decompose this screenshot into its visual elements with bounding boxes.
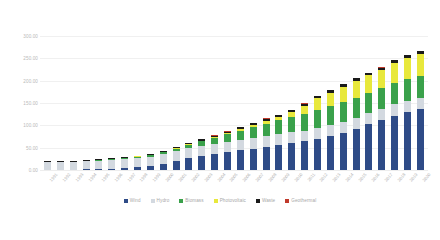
- bar-segment-biomass[interactable]: [301, 114, 308, 131]
- bar-segment-photovoltaic[interactable]: [340, 87, 347, 103]
- bar-column[interactable]: [157, 36, 170, 170]
- bar-segment-photovoltaic[interactable]: [301, 106, 308, 114]
- bar-segment-wind[interactable]: [173, 161, 180, 170]
- bar-column[interactable]: [401, 36, 414, 170]
- bar-segment-hydro[interactable]: [211, 144, 218, 154]
- legend-item-wind[interactable]: Wind: [124, 198, 141, 203]
- bar-stack[interactable]: [263, 118, 270, 170]
- bar-segment-photovoltaic[interactable]: [353, 81, 360, 98]
- bar-stack[interactable]: [417, 51, 424, 170]
- bar-stack[interactable]: [288, 110, 295, 170]
- bar-segment-hydro[interactable]: [173, 151, 180, 161]
- bar-segment-hydro[interactable]: [57, 162, 64, 169]
- bar-column[interactable]: [414, 36, 427, 170]
- bar-stack[interactable]: [121, 157, 128, 170]
- bar-column[interactable]: [41, 36, 54, 170]
- bar-stack[interactable]: [391, 60, 398, 170]
- bar-segment-hydro[interactable]: [237, 140, 244, 150]
- bar-column[interactable]: [375, 36, 388, 170]
- bar-stack[interactable]: [353, 78, 360, 170]
- bar-segment-hydro[interactable]: [365, 113, 372, 124]
- bar-column[interactable]: [234, 36, 247, 170]
- bar-segment-wind[interactable]: [314, 139, 321, 170]
- bar-segment-hydro[interactable]: [417, 98, 424, 109]
- bar-stack[interactable]: [173, 147, 180, 170]
- bar-segment-hydro[interactable]: [44, 162, 51, 169]
- bar-segment-photovoltaic[interactable]: [404, 58, 411, 79]
- bar-segment-wind[interactable]: [404, 112, 411, 170]
- bar-column[interactable]: [105, 36, 118, 170]
- bar-segment-biomass[interactable]: [224, 134, 231, 142]
- bar-segment-wind[interactable]: [327, 136, 334, 170]
- bar-column[interactable]: [221, 36, 234, 170]
- bar-column[interactable]: [311, 36, 324, 170]
- bar-segment-biomass[interactable]: [378, 88, 385, 109]
- bar-column[interactable]: [208, 36, 221, 170]
- bar-column[interactable]: [285, 36, 298, 170]
- bar-segment-wind[interactable]: [417, 109, 424, 170]
- bar-segment-wind[interactable]: [288, 143, 295, 170]
- bar-stack[interactable]: [70, 161, 77, 170]
- bar-column[interactable]: [170, 36, 183, 170]
- bar-column[interactable]: [131, 36, 144, 170]
- bar-segment-biomass[interactable]: [417, 76, 424, 98]
- bar-segment-wind[interactable]: [353, 129, 360, 170]
- bar-segment-wind[interactable]: [365, 124, 372, 170]
- bar-segment-photovoltaic[interactable]: [314, 98, 321, 110]
- bar-segment-hydro[interactable]: [198, 146, 205, 156]
- bar-stack[interactable]: [275, 115, 282, 170]
- bar-segment-biomass[interactable]: [288, 117, 295, 132]
- bar-segment-hydro[interactable]: [121, 159, 128, 168]
- bar-stack[interactable]: [95, 159, 102, 170]
- bar-stack[interactable]: [185, 143, 192, 170]
- bar-segment-hydro[interactable]: [250, 138, 257, 148]
- bar-segment-hydro[interactable]: [185, 148, 192, 158]
- bar-segment-hydro[interactable]: [404, 101, 411, 112]
- bar-stack[interactable]: [134, 156, 141, 171]
- bar-column[interactable]: [324, 36, 337, 170]
- bar-column[interactable]: [247, 36, 260, 170]
- bar-segment-hydro[interactable]: [263, 136, 270, 147]
- bar-column[interactable]: [272, 36, 285, 170]
- bar-segment-hydro[interactable]: [83, 161, 90, 169]
- bar-segment-hydro[interactable]: [108, 160, 115, 168]
- bar-segment-wind[interactable]: [198, 156, 205, 170]
- bar-column[interactable]: [54, 36, 67, 170]
- bar-stack[interactable]: [314, 96, 321, 170]
- bar-column[interactable]: [298, 36, 311, 170]
- bar-segment-wind[interactable]: [250, 149, 257, 170]
- bar-segment-hydro[interactable]: [301, 131, 308, 142]
- bar-segment-photovoltaic[interactable]: [327, 93, 334, 107]
- bar-segment-hydro[interactable]: [288, 132, 295, 143]
- bar-segment-wind[interactable]: [301, 141, 308, 170]
- bar-segment-hydro[interactable]: [391, 104, 398, 115]
- bar-column[interactable]: [182, 36, 195, 170]
- bar-segment-hydro[interactable]: [340, 122, 347, 133]
- bar-segment-wind[interactable]: [263, 147, 270, 170]
- legend-item-hydro[interactable]: Hydro: [151, 198, 170, 203]
- bar-stack[interactable]: [365, 73, 372, 170]
- bar-column[interactable]: [118, 36, 131, 170]
- bar-segment-wind[interactable]: [275, 145, 282, 170]
- legend-item-biomass[interactable]: Biomass: [179, 198, 203, 203]
- bar-column[interactable]: [92, 36, 105, 170]
- bar-segment-hydro[interactable]: [275, 134, 282, 145]
- bar-segment-biomass[interactable]: [340, 102, 347, 122]
- bar-segment-wind[interactable]: [211, 154, 218, 170]
- bar-stack[interactable]: [224, 131, 231, 170]
- bar-segment-hydro[interactable]: [378, 109, 385, 120]
- bar-segment-hydro[interactable]: [327, 125, 334, 136]
- bar-segment-photovoltaic[interactable]: [378, 70, 385, 88]
- bar-segment-biomass[interactable]: [391, 83, 398, 104]
- bar-segment-hydro[interactable]: [95, 161, 102, 169]
- bar-segment-biomass[interactable]: [237, 131, 244, 140]
- bar-segment-hydro[interactable]: [314, 128, 321, 139]
- bar-column[interactable]: [67, 36, 80, 170]
- bar-segment-biomass[interactable]: [365, 93, 372, 114]
- bar-segment-wind[interactable]: [237, 150, 244, 170]
- bar-segment-biomass[interactable]: [404, 79, 411, 101]
- bar-stack[interactable]: [404, 55, 411, 170]
- bar-column[interactable]: [195, 36, 208, 170]
- bar-segment-wind[interactable]: [378, 120, 385, 170]
- legend-item-photovoltaic[interactable]: Photovoltaic: [214, 198, 246, 203]
